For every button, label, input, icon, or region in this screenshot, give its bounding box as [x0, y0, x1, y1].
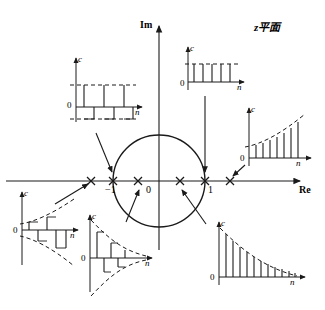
inset-bottom-left-zero-label: 0: [13, 225, 18, 235]
inset-bottom-center-zero-label: 0: [81, 253, 86, 263]
inset-top-center-c-label: c: [190, 43, 194, 53]
inset-alternating-growing-exponential-sequence: [20, 192, 78, 266]
inset-decaying-exponential-sequence: [219, 222, 305, 285]
inset-top-left-n-label: n: [135, 107, 140, 117]
inset-bottom-right-c-label: c: [221, 218, 225, 228]
tick-label-pos-one: 1: [208, 184, 213, 195]
inset-top-center-n-label: n: [237, 82, 242, 92]
inset-alternating-decaying-exponential-sequence: [90, 215, 152, 296]
inset-top-center-zero-label: 0: [180, 78, 185, 88]
inset-bottom-center-n-label: n: [145, 258, 150, 268]
inset-bottom-right-n-label: n: [290, 277, 295, 287]
inset-bottom-center-c-label: c: [92, 211, 96, 221]
inset-alternating-constant-sequence: [70, 58, 142, 122]
inset-right-zero-label: 0: [240, 153, 245, 163]
inset-growing-exponential-sequence: [245, 108, 311, 166]
inset-bottom-left-n-label: n: [70, 230, 75, 240]
inset-right-n-label: n: [296, 158, 301, 168]
arrow-to-pole-outside-right: [233, 165, 245, 176]
real-axis-label: Re: [299, 184, 311, 195]
plane-label: z平面: [254, 18, 280, 34]
inset-bottom-right-zero-label: 0: [210, 272, 215, 282]
diagram-canvas: [0, 0, 325, 310]
pointer-arrows: [55, 96, 245, 224]
inset-constant-sequence: [185, 47, 244, 90]
inset-right-c-label: c: [251, 104, 255, 114]
origin-label: 0: [146, 184, 151, 195]
inset-bottom-left-c-label: c: [24, 188, 28, 198]
tick-label-neg-one: −1: [105, 184, 116, 195]
arrow-to-pole-inside-left: [126, 190, 139, 222]
z-plane-pole-diagram: z平面 Im Re −1 0 1 c n 0 c n 0 c n 0 c n 0…: [0, 0, 325, 310]
inset-top-left-c-label: c: [78, 54, 82, 64]
inset-top-left-zero-label: 0: [67, 100, 72, 110]
arrow-to-pole-on-circle-left: [96, 133, 112, 172]
imaginary-axis-label: Im: [140, 19, 152, 30]
